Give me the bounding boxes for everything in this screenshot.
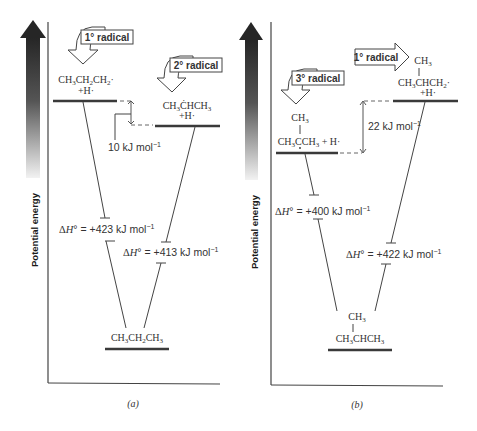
primary-radical-badge-b: 1° radical: [354, 43, 409, 71]
dh-label-400: ΔH° = +400 kJ mol−1: [275, 205, 371, 217]
formula-isobutane: CH3CHCH3: [336, 333, 385, 346]
dh-label-422: ΔH° = +422 kJ mol−1: [346, 248, 442, 260]
dh-label-423: ΔH° = +423 kJ mol−1: [59, 223, 155, 235]
gap-label-b: 22 kJ mol−1: [368, 120, 421, 132]
svg-text:1° radical: 1° radical: [85, 32, 130, 43]
svg-text:2° radical: 2° radical: [174, 60, 219, 71]
svg-text:3° radical: 3° radical: [296, 73, 341, 84]
gap-label-a: 10 kJ mol−1: [108, 141, 161, 153]
panel-b: Potential energy 3° radical 1° r: [239, 22, 458, 411]
formula-propane: CH3CH2CH3: [111, 332, 164, 345]
ylabel: Potential energy: [29, 192, 40, 267]
dh-label-413: ΔH° = +413 kJ mol−1: [123, 246, 219, 258]
svg-text:+H·: +H·: [420, 87, 436, 98]
energy-diagram: Potential energy 1° radical: [0, 0, 477, 431]
ylabel: Potential energy: [249, 194, 260, 269]
formula-branch-ch3: CH3: [348, 311, 366, 324]
secondary-radical-badge: 2° radical: [157, 56, 222, 92]
svg-text:+H·: +H·: [78, 85, 94, 96]
formula-tert-butyl-radical: CH3CCH3 + H·: [278, 136, 341, 149]
formula-branch-ch3: CH3: [291, 112, 309, 125]
panel-a: Potential energy 1° radical: [20, 20, 222, 410]
tertiary-radical-badge: 3° radical: [281, 69, 344, 104]
caption-a: (a): [127, 398, 139, 410]
caption-b: (b): [351, 399, 363, 411]
formula-branch-ch3: CH3: [414, 55, 432, 68]
svg-text:1° radical: 1° radical: [354, 52, 399, 63]
primary-radical-badge: 1° radical: [68, 27, 133, 64]
svg-text:+H·: +H·: [179, 110, 195, 121]
